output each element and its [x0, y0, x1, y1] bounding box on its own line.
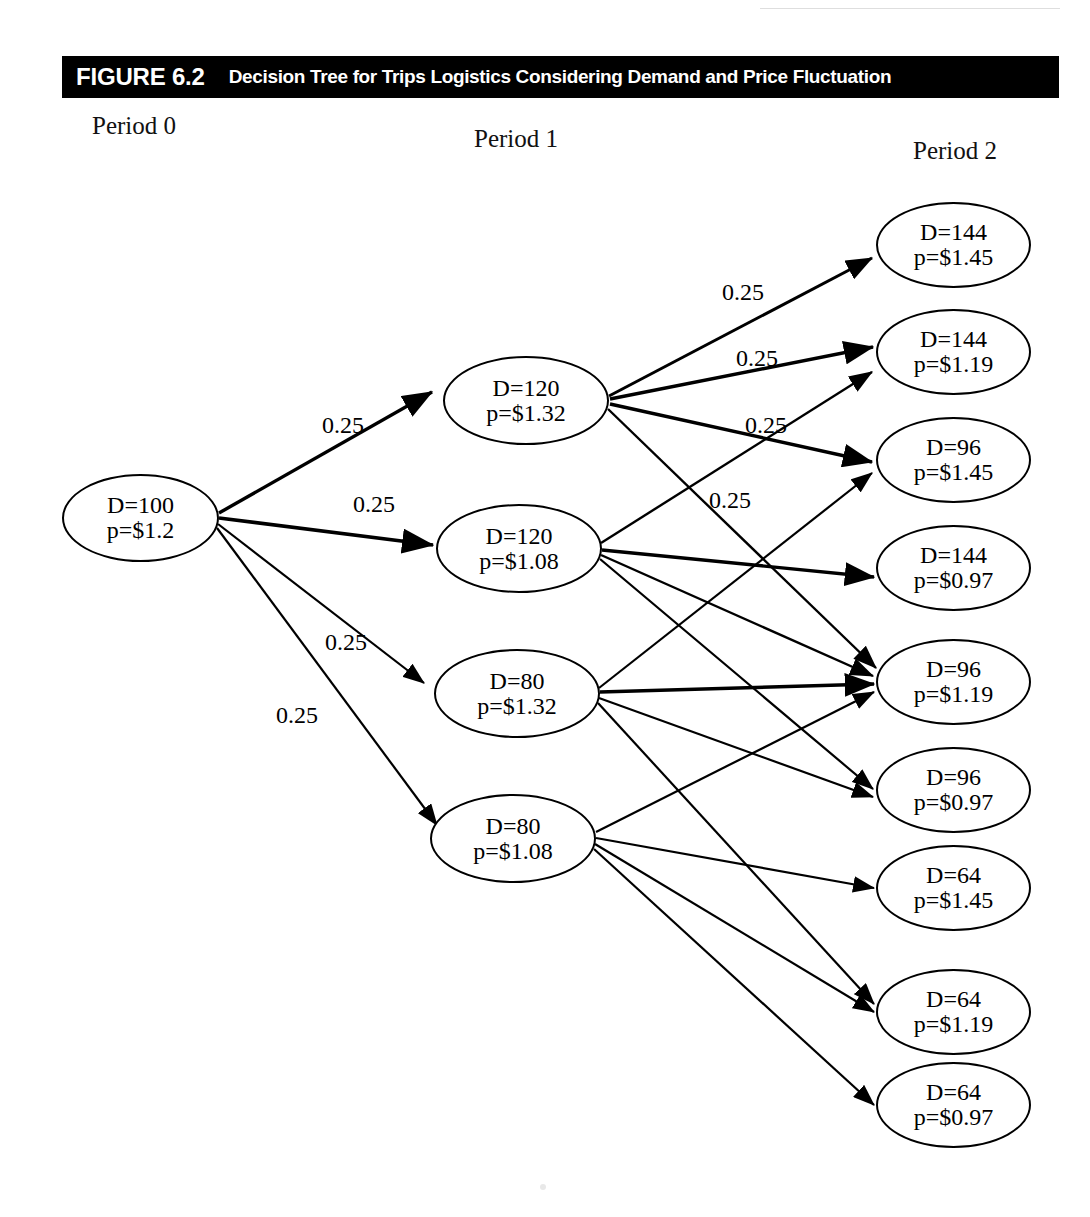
node-period1-d120-p108[interactable]: D=120 p=$1.08 — [436, 504, 602, 593]
node-demand-value: D=96 — [926, 435, 981, 460]
edge-p1b-p2f — [600, 559, 873, 789]
edge-label-p1a-p2c: 0.25 — [745, 412, 787, 439]
edge-p1d-p2h — [595, 844, 874, 1012]
node-price-value: p=$1.08 — [479, 549, 559, 574]
node-price-value: p=$1.08 — [473, 839, 553, 864]
edge-p1d-p2g — [596, 838, 874, 888]
edge-label-p0-p1b: 0.25 — [353, 491, 395, 518]
edge-label-p1a-p2a: 0.25 — [722, 279, 764, 306]
node-price-value: p=$1.32 — [477, 694, 557, 719]
node-period2-d96-p097[interactable]: D=96 p=$0.97 — [876, 747, 1031, 833]
edge-p1c-p2e — [600, 684, 874, 692]
edge-label-p1a-p2e: 0.25 — [709, 487, 751, 514]
node-demand-value: D=120 — [486, 524, 553, 549]
edge-p1a-p2e — [608, 409, 876, 668]
node-price-value: p=$1.19 — [914, 1012, 994, 1037]
node-price-value: p=$1.2 — [107, 518, 175, 543]
node-price-value: p=$1.45 — [914, 888, 994, 913]
node-period1-d80-p132[interactable]: D=80 p=$1.32 — [434, 649, 600, 738]
edge-label-p0-p1d: 0.25 — [276, 702, 318, 729]
node-period2-d96-p119[interactable]: D=96 p=$1.19 — [876, 639, 1031, 725]
edge-label-p1a-p2b: 0.25 — [736, 345, 778, 372]
node-period2-d144-p097[interactable]: D=144 p=$0.97 — [876, 525, 1031, 611]
node-demand-value: D=96 — [926, 657, 981, 682]
node-period2-d144-p119[interactable]: D=144 p=$1.19 — [876, 309, 1031, 395]
node-price-value: p=$1.19 — [914, 682, 994, 707]
page-artifact-speck — [540, 1184, 546, 1190]
node-period2-d64-p145[interactable]: D=64 p=$1.45 — [876, 845, 1031, 931]
node-demand-value: D=144 — [920, 543, 987, 568]
node-price-value: p=$0.97 — [914, 568, 994, 593]
node-demand-value: D=100 — [107, 493, 174, 518]
edge-p0-p1d — [217, 528, 437, 825]
edge-label-p0-p1a: 0.25 — [322, 412, 364, 439]
node-price-value: p=$1.45 — [914, 245, 994, 270]
edge-p1d-p2i — [594, 849, 874, 1105]
node-period2-d64-p119[interactable]: D=64 p=$1.19 — [876, 969, 1031, 1055]
node-demand-value: D=64 — [926, 863, 981, 888]
node-demand-value: D=144 — [920, 220, 987, 245]
node-period1-d80-p108[interactable]: D=80 p=$1.08 — [430, 794, 596, 883]
node-price-value: p=$0.97 — [914, 790, 994, 815]
node-demand-value: D=120 — [493, 376, 560, 401]
node-period2-d96-p145[interactable]: D=96 p=$1.45 — [876, 417, 1031, 503]
node-price-value: p=$1.32 — [486, 401, 566, 426]
node-demand-value: D=64 — [926, 987, 981, 1012]
edge-p0-p1c — [218, 524, 424, 683]
node-price-value: p=$1.19 — [914, 352, 994, 377]
node-period1-d120-p132[interactable]: D=120 p=$1.32 — [443, 356, 609, 445]
edge-p1b-p2b — [601, 372, 872, 543]
node-period2-d144-p145[interactable]: D=144 p=$1.45 — [876, 202, 1031, 288]
node-period2-d64-p097[interactable]: D=64 p=$0.97 — [876, 1062, 1031, 1148]
edge-p0-p1a — [219, 392, 432, 513]
node-demand-value: D=80 — [486, 814, 541, 839]
node-period0-d100[interactable]: D=100 p=$1.2 — [62, 474, 219, 562]
node-price-value: p=$1.45 — [914, 460, 994, 485]
edge-p0-p1b — [219, 518, 433, 545]
node-price-value: p=$0.97 — [914, 1105, 994, 1130]
node-demand-value: D=64 — [926, 1080, 981, 1105]
node-demand-value: D=80 — [490, 669, 545, 694]
edge-label-p0-p1c: 0.25 — [325, 629, 367, 656]
node-demand-value: D=96 — [926, 765, 981, 790]
node-demand-value: D=144 — [920, 327, 987, 352]
